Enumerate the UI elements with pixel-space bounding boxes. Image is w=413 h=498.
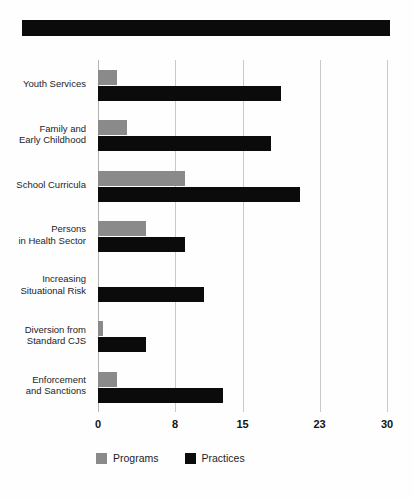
x-tick-label-0: 0 <box>95 418 101 430</box>
x-tick-label-8: 8 <box>172 418 178 430</box>
legend-label: Practices <box>202 452 245 464</box>
bar-programs <box>98 321 103 336</box>
category-label: Persons in Health Sector <box>0 223 92 246</box>
legend-label: Programs <box>113 452 159 464</box>
bar-programs <box>98 70 117 85</box>
title-banner <box>22 20 390 36</box>
chart-legend: ProgramsPractices <box>96 450 245 466</box>
bar-row <box>98 362 387 412</box>
category-label: School Curricula <box>0 179 92 191</box>
category-label: Diversion from Standard CJS <box>0 324 92 347</box>
category-label: Youth Services <box>0 78 92 90</box>
legend-swatch-icon <box>185 453 196 464</box>
bar-row <box>98 60 387 110</box>
x-tick-label-23: 23 <box>313 418 325 430</box>
legend-swatch-icon <box>96 453 107 464</box>
bar-programs <box>98 372 117 387</box>
chart-figure: Youth ServicesFamily and Early Childhood… <box>0 0 413 498</box>
bar-practices <box>98 337 146 352</box>
category-label: Enforcement and Sanctions <box>0 374 92 397</box>
bar-row <box>98 311 387 361</box>
category-label: Family and Early Childhood <box>0 123 92 146</box>
gridline-30 <box>387 60 388 412</box>
category-label: Increasing Situational Risk <box>0 273 92 296</box>
bar-practices <box>98 237 185 252</box>
bar-practices <box>98 287 204 302</box>
bar-row <box>98 161 387 211</box>
bar-row <box>98 110 387 160</box>
x-tick-label-15: 15 <box>236 418 248 430</box>
bar-programs <box>98 221 146 236</box>
plot-area <box>98 60 387 412</box>
bar-row <box>98 261 387 311</box>
bar-practices <box>98 187 300 202</box>
legend-item-programs[interactable]: Programs <box>96 452 159 464</box>
bar-practices <box>98 136 271 151</box>
bar-programs <box>98 120 127 135</box>
x-tick-label-30: 30 <box>381 418 393 430</box>
bar-practices <box>98 86 281 101</box>
category-label-column: Youth ServicesFamily and Early Childhood… <box>0 60 92 412</box>
bar-practices <box>98 388 223 403</box>
bar-row <box>98 211 387 261</box>
legend-item-practices[interactable]: Practices <box>185 452 245 464</box>
bar-programs <box>98 171 185 186</box>
x-axis-tick-labels: 08152330 <box>98 418 387 434</box>
